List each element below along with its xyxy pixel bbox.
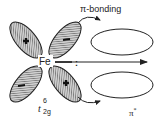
- ligand-orbital-upper: [91, 29, 153, 55]
- ligand-orbital-lower: [91, 72, 153, 98]
- minus-sign-lower-left: [18, 85, 25, 86]
- t2g-label: t: [38, 103, 41, 114]
- pi-bonding-label: π-bonding: [80, 4, 121, 14]
- curved-arrow-upper: [78, 17, 100, 23]
- metal-label: Fe: [39, 56, 51, 67]
- pi-star-label: π*: [129, 107, 137, 118]
- t2g-subscript: 2g: [43, 108, 51, 116]
- lobe-lower-left: [4, 61, 48, 108]
- lone-pair: :: [75, 58, 78, 68]
- metal-ligand-pi-bonding-diagram: Fe : π-bonding π* t 6 2g: [0, 0, 165, 125]
- t2g-superscript: 6: [43, 97, 47, 104]
- minus-sign-upper-right: [63, 39, 70, 40]
